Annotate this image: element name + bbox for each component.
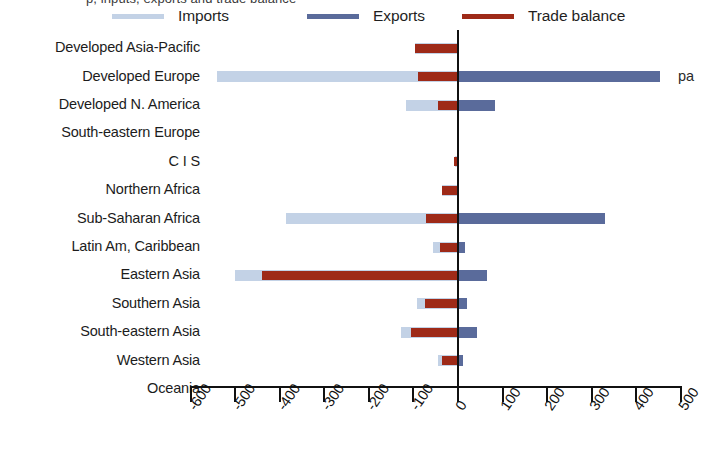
bar-trade-balance [442, 356, 458, 365]
clipped-right-text: pa [678, 68, 694, 84]
trade-balance-swatch-icon [462, 14, 514, 19]
axis-line [191, 386, 681, 388]
zero-tick-extension [457, 374, 459, 388]
legend-item-trade-balance[interactable]: Trade balance [462, 5, 625, 27]
axis-tick-label: 500 [675, 385, 701, 414]
bar-trade-balance [411, 328, 458, 337]
legend-item-imports[interactable]: Imports [112, 5, 229, 27]
bar-trade-balance [426, 214, 458, 223]
legend-label-imports: Imports [178, 7, 229, 25]
value-axis: -600-500-400-300-200-1000100200300400500 [0, 386, 698, 462]
axis-tick-label: 300 [586, 385, 613, 414]
bars-layer [0, 30, 698, 390]
legend-label-exports: Exports [373, 7, 425, 25]
bar-trade-balance [440, 243, 458, 252]
zero-axis-line [457, 30, 459, 386]
bar-exports [458, 100, 495, 111]
bar-trade-balance [415, 44, 458, 53]
bar-exports [458, 327, 477, 338]
axis-tick-label: 0 [452, 398, 470, 414]
bar-trade-balance [418, 72, 458, 81]
legend-item-exports[interactable]: Exports [307, 5, 425, 27]
axis-tick-label: 200 [541, 385, 568, 414]
bar-trade-balance [438, 101, 458, 110]
bar-exports [458, 270, 487, 281]
bar-trade-balance [425, 299, 458, 308]
imports-swatch-icon [112, 14, 164, 19]
bar-exports [458, 213, 605, 224]
bar-exports [458, 242, 465, 253]
axis-tick-label: 100 [497, 385, 524, 414]
bar-trade-balance [442, 186, 458, 195]
bar-exports [458, 71, 660, 82]
axis-tick-label: 400 [630, 385, 657, 414]
exports-swatch-icon [307, 14, 359, 19]
bar-exports [458, 298, 467, 309]
bar-trade-balance [262, 271, 458, 280]
chart-legend: Imports Exports Trade balance [0, 5, 698, 27]
legend-label-trade-balance: Trade balance [528, 7, 625, 25]
plot-area: Developed Asia-PacificDeveloped EuropeDe… [0, 30, 698, 390]
